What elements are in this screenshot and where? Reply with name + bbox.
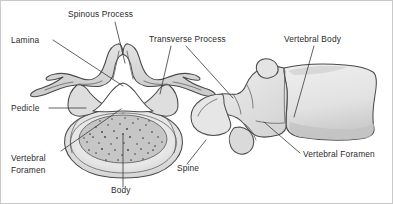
superior-vertebral-foramen xyxy=(93,83,153,112)
lateral-superior-articular-process xyxy=(256,59,278,78)
anatomy-figure: Spinous Process Lamina Transverse Proces… xyxy=(0,0,393,204)
label-spinous-process: Spinous Process xyxy=(68,9,133,19)
label-vertebral-foramen-lateral: Vertebral Foramen xyxy=(303,149,375,159)
lateral-view-vertebra xyxy=(191,59,376,154)
label-vertebral-body: Vertebral Body xyxy=(284,34,342,44)
label-lamina: Lamina xyxy=(11,35,40,45)
vertebra-diagram-svg: Spinous Process Lamina Transverse Proces… xyxy=(1,1,393,204)
label-vertebral-foramen-superior-line1: Vertebral xyxy=(11,153,46,163)
label-vertebral-foramen-superior-line2: Foramen xyxy=(11,165,46,175)
label-spine: Spine xyxy=(177,163,199,173)
label-transverse-process: Transverse Process xyxy=(149,34,226,44)
leader-spine xyxy=(187,140,206,164)
label-body: Body xyxy=(111,185,131,195)
label-pedicle: Pedicle xyxy=(11,103,40,113)
